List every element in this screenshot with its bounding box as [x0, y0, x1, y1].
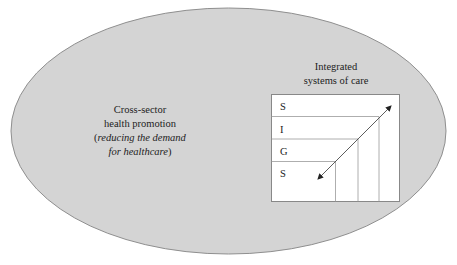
ellipse-label-line-1: Cross-sector	[114, 104, 167, 115]
row-letter-2: I	[280, 124, 284, 135]
ellipse-label-italic-2: for healthcare	[109, 146, 169, 157]
ellipse-label-line-3: (reducing the demand	[94, 132, 187, 144]
row-letter-4: S	[280, 168, 286, 179]
paren-close: )	[168, 146, 172, 158]
ellipse-label-italic-1: reducing the demand	[98, 132, 187, 143]
ellipse-label-line-2: health promotion	[104, 118, 177, 129]
box-title-line-1: Integrated	[315, 61, 358, 72]
box-title-line-2: systems of care	[304, 75, 369, 86]
row-letter-3: G	[280, 146, 288, 157]
diagram-canvas: Cross-sector health promotion (reducing …	[0, 0, 457, 265]
row-letter-1: S	[280, 101, 286, 112]
ellipse-label-line-4: for healthcare)	[109, 146, 172, 158]
